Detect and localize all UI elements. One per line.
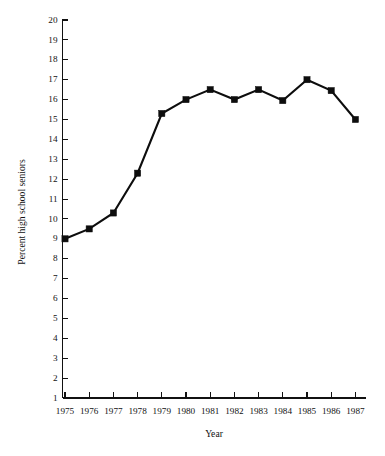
y-tick-label: 3 [53, 353, 58, 363]
x-tick-label: 1978 [128, 406, 147, 416]
y-tick-label: 15 [48, 114, 58, 124]
y-tick-label: 10 [48, 214, 58, 224]
y-tick-label: 13 [48, 154, 58, 164]
x-tick-label: 1980 [177, 406, 196, 416]
x-tick-label: 1986 [322, 406, 341, 416]
y-tick-label: 7 [53, 273, 58, 283]
data-point-marker [328, 88, 334, 94]
data-point-marker [207, 87, 213, 93]
chart-canvas: 1234567891011121314151617181920 19751976… [0, 0, 385, 456]
x-tick-label: 1977 [104, 406, 123, 416]
data-point-marker [352, 116, 358, 122]
y-tick-label: 20 [48, 15, 58, 25]
x-tick-label: 1983 [249, 406, 268, 416]
data-point-marker [110, 210, 116, 216]
y-axis-title: Percent high school seniors [16, 159, 27, 265]
chart-background [0, 0, 385, 456]
data-point-marker [304, 77, 310, 83]
data-point-marker [159, 110, 165, 116]
x-tick-label: 1984 [274, 406, 293, 416]
y-tick-label: 6 [53, 293, 58, 303]
data-point-marker [183, 96, 189, 102]
y-tick-label: 14 [48, 134, 58, 144]
y-tick-label: 4 [53, 333, 58, 343]
x-axis-title: Year [205, 428, 223, 439]
x-tick-label: 1976 [80, 406, 99, 416]
x-tick-label: 1985 [298, 406, 317, 416]
x-tick-label: 1975 [56, 406, 75, 416]
y-tick-label: 18 [48, 54, 58, 64]
y-tick-label: 11 [49, 194, 58, 204]
y-tick-label: 12 [48, 174, 58, 184]
y-tick-label: 9 [53, 233, 58, 243]
x-tick-label: 1982 [225, 406, 244, 416]
y-tick-label: 2 [53, 373, 58, 383]
y-tick-label: 1 [53, 393, 58, 403]
y-tick-label: 17 [48, 74, 58, 84]
data-point-marker [280, 97, 286, 103]
y-tick-label: 16 [48, 94, 58, 104]
y-tick-label: 5 [53, 313, 58, 323]
data-point-marker [62, 236, 68, 242]
x-tick-label: 1979 [153, 406, 172, 416]
data-point-marker [86, 226, 92, 232]
y-tick-label: 8 [53, 253, 58, 263]
data-point-marker [135, 170, 141, 176]
x-tick-label: 1987 [346, 406, 365, 416]
x-tick-label: 1981 [201, 406, 220, 416]
data-point-marker [256, 87, 262, 93]
data-point-marker [231, 96, 237, 102]
line-chart: 1234567891011121314151617181920 19751976… [0, 0, 385, 456]
y-tick-label: 19 [48, 35, 58, 45]
